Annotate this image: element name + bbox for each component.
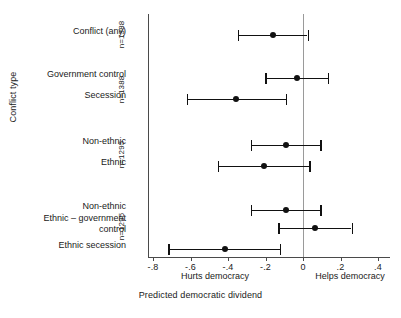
category-label-ethnic-government-control: Ethnic – government control [4,213,126,234]
estimate-row [148,204,390,218]
x-tick-mark-04 [378,257,379,261]
forest-plot-figure: Conflict type Conflict (any) Government … [0,0,401,318]
x-tick-mark-neg02 [266,257,267,261]
estimate-row [148,160,390,174]
ci-cap-upper [286,94,287,105]
point-estimate-marker [283,142,289,148]
category-label-column: Conflict (any) Government control Secess… [0,0,126,260]
x-tick-mark-zero [303,257,304,261]
point-estimate-marker [312,225,318,231]
ci-cap-lower [251,205,252,216]
category-label-non-ethnic-a: Non-ethnic [4,136,126,147]
category-label-government-control: Government control [4,69,126,80]
x-axis-line [148,257,390,258]
estimate-row [148,243,390,257]
caption-helps-democracy: Helps democracy [295,271,401,281]
y-axis-line [148,14,149,257]
x-tick-mark-neg04 [228,257,229,261]
ci-cap-lower [265,73,266,84]
ci-cap-lower [251,140,252,151]
ci-cap-upper [352,223,353,234]
zero-reference-line [303,14,304,257]
point-estimate-marker [261,163,267,169]
estimate-row [148,29,390,43]
ci-cap-upper [320,140,321,151]
category-label-non-ethnic-b: Non-ethnic [4,201,126,212]
plot-area: -.8 -.6 -.4 -.2 0 .2 .4 [148,14,390,257]
group-n-label-4: n=1295 [117,208,126,246]
point-estimate-marker [222,246,228,252]
ci-cap-upper [308,30,309,41]
ci-cap-upper [309,161,310,172]
group-n-label-2: n=1388 [117,71,126,109]
point-estimate-marker [294,75,300,81]
ci-cap-lower [278,223,279,234]
ci-cap-lower [168,244,169,255]
x-tick-mark-neg08 [153,257,154,261]
category-label-ethnic: Ethnic [4,157,126,168]
category-label-secession: Secession [4,90,126,101]
ci-cap-lower [238,30,239,41]
point-estimate-marker [233,96,239,102]
ci-cap-upper [320,205,321,216]
ci-cap-lower [218,161,219,172]
ci-cap-upper [280,244,281,255]
group-n-label-1: n=1388 [117,16,126,54]
point-estimate-marker [270,32,276,38]
group-n-label-3: n=1295 [117,136,126,174]
estimate-row [148,139,390,153]
ci-cap-lower [187,94,188,105]
ci-cap-upper [328,73,329,84]
point-estimate-marker [283,207,289,213]
estimate-row [148,93,390,107]
estimate-row [148,222,390,236]
x-tick-mark-neg06 [191,257,192,261]
estimate-row [148,72,390,86]
caption-hurts-democracy: Hurts democracy [155,271,275,281]
category-label-ethnic-secession: Ethnic secession [4,240,126,251]
x-axis-title: Predicted democratic dividend [0,290,401,300]
x-tick-mark-02 [341,257,342,261]
category-label-conflict-any: Conflict (any) [4,26,126,37]
